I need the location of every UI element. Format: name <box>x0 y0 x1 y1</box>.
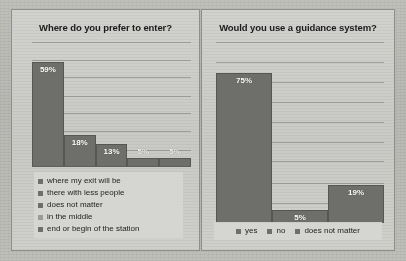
legend-item-end-or-begin-of-the-station[interactable]: end or begin of the station <box>38 223 179 235</box>
legend-item-no[interactable]: no <box>267 225 285 237</box>
plot-area-entry-preference: 59% 18% 13% 5% <box>32 42 191 167</box>
legend-swatch-icon <box>38 227 43 232</box>
bar-does-not-matter[interactable]: 13% <box>96 144 128 167</box>
bar-series-entry-preference: 59% 18% 13% 5% <box>32 42 191 167</box>
bar-value-label: 18% <box>64 138 96 147</box>
bar-slot: 5% <box>127 42 159 167</box>
chart-panel-entry-preference: Where do you prefer to enter? 59% <box>11 9 200 251</box>
bar-slot: 5% <box>272 42 328 223</box>
legend-label: in the middle <box>47 211 92 223</box>
legend-swatch-icon <box>295 229 300 234</box>
chart-panel-guidance-system: Would you use a guidance system? 75% <box>201 9 395 251</box>
legend-label: yes <box>245 225 257 237</box>
bar-value-label: 5% <box>272 213 328 222</box>
legend-item-in-the-middle[interactable]: in the middle <box>38 211 179 223</box>
bar-value-label: 59% <box>32 65 64 74</box>
legend-swatch-icon <box>236 229 241 234</box>
chart-title-guidance-system: Would you use a guidance system? <box>202 22 394 33</box>
legend-label: end or begin of the station <box>47 223 140 235</box>
legend-guidance-system: yes no does not matter <box>214 222 382 240</box>
legend-item-does-not-matter[interactable]: does not matter <box>38 199 179 211</box>
bar-value-label: 5% <box>159 147 191 156</box>
bar-slot: 5% <box>159 42 191 167</box>
bar-value-label: 75% <box>216 76 272 85</box>
plot-area-guidance-system: 75% 5% 19% <box>216 42 384 223</box>
legend-swatch-icon <box>38 191 43 196</box>
survey-charts-figure: Where do you prefer to enter? 59% <box>11 9 395 251</box>
x-axis-line <box>32 166 191 167</box>
legend-label: no <box>276 225 285 237</box>
bar-series-guidance-system: 75% 5% 19% <box>216 42 384 223</box>
legend-swatch-icon <box>267 229 272 234</box>
legend-item-yes[interactable]: yes <box>236 225 257 237</box>
legend-swatch-icon <box>38 179 43 184</box>
bar-slot: 59% <box>32 42 64 167</box>
bar-where-my-exit-will-be[interactable]: 59% <box>32 62 64 167</box>
legend-label: does not matter <box>304 225 360 237</box>
bar-slot: 13% <box>96 42 128 167</box>
bar-does-not-matter[interactable]: 19% <box>328 185 384 223</box>
bar-yes[interactable]: 75% <box>216 73 272 223</box>
bar-slot: 19% <box>328 42 384 223</box>
legend-entry-preference: where my exit will be there with less pe… <box>34 172 183 238</box>
legend-item-does-not-matter[interactable]: does not matter <box>295 225 360 237</box>
legend-item-where-my-exit-will-be[interactable]: where my exit will be <box>38 175 179 187</box>
legend-swatch-icon <box>38 203 43 208</box>
bar-value-label: 19% <box>328 188 384 197</box>
legend-swatch-icon <box>38 215 43 220</box>
chart-title-entry-preference: Where do you prefer to enter? <box>12 22 199 33</box>
legend-item-there-with-less-people[interactable]: there with less people <box>38 187 179 199</box>
bar-there-with-less-people[interactable]: 18% <box>64 135 96 168</box>
bar-slot: 75% <box>216 42 272 223</box>
bar-slot: 18% <box>64 42 96 167</box>
legend-label: there with less people <box>47 187 124 199</box>
legend-label: where my exit will be <box>47 175 121 187</box>
bar-value-label: 13% <box>96 147 128 156</box>
bar-value-label: 5% <box>127 147 159 156</box>
legend-label: does not matter <box>47 199 103 211</box>
